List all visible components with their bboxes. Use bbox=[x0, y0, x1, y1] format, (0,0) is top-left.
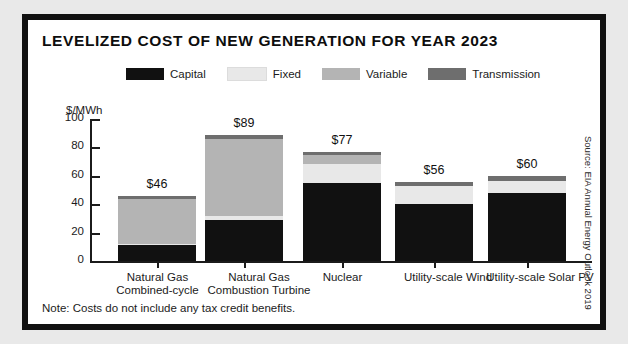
category-label-line: Nuclear bbox=[295, 271, 390, 284]
legend-swatch-icon bbox=[322, 68, 360, 80]
x-axis-tick-mark bbox=[527, 263, 529, 268]
chart-title: LEVELIZED COST OF NEW GENERATION FOR YEA… bbox=[42, 32, 498, 50]
bar-segment-fixed bbox=[395, 186, 473, 204]
bar-segment-capital bbox=[303, 183, 381, 261]
y-axis-tick-label: 20 bbox=[71, 225, 84, 237]
y-axis-line bbox=[90, 119, 92, 261]
bar-segment-fixed bbox=[303, 164, 381, 182]
bar-5[interactable]: $60 bbox=[488, 176, 566, 261]
bar-1[interactable]: $46 bbox=[118, 196, 196, 261]
x-axis-category-label: Nuclear bbox=[295, 271, 390, 284]
bar-value-label: $60 bbox=[517, 157, 538, 171]
x-axis-tick-mark bbox=[342, 263, 344, 268]
chart-page: LEVELIZED COST OF NEW GENERATION FOR YEA… bbox=[0, 0, 628, 344]
bar-segment-capital bbox=[488, 193, 566, 261]
y-axis-tick: 0 bbox=[90, 261, 100, 263]
x-axis-tick-mark bbox=[244, 263, 246, 268]
bar-segment-variable bbox=[205, 139, 283, 216]
y-axis-tick: 60 bbox=[90, 176, 100, 178]
y-axis-tick-label: 40 bbox=[71, 196, 84, 208]
y-axis-tick-mark bbox=[92, 119, 100, 121]
bar-3[interactable]: $77 bbox=[303, 152, 381, 261]
bar-segment-capital bbox=[395, 204, 473, 261]
legend-label: Fixed bbox=[273, 68, 301, 80]
bar-value-label: $56 bbox=[424, 163, 445, 177]
category-label-line: Combustion Turbine bbox=[203, 284, 315, 297]
chart-legend: CapitalFixedVariableTransmission bbox=[126, 67, 552, 81]
legend-item-capital: Capital bbox=[126, 68, 206, 80]
y-axis-tick: 20 bbox=[90, 233, 100, 235]
bar-value-label: $89 bbox=[234, 116, 255, 130]
legend-label: Transmission bbox=[472, 68, 540, 80]
x-axis-tick-mark bbox=[157, 263, 159, 268]
y-axis-tick-mark bbox=[92, 147, 100, 149]
legend-item-variable: Variable bbox=[322, 68, 407, 80]
x-axis-category-label: Utility-scale Solar PV bbox=[480, 271, 600, 284]
x-axis-tick-mark bbox=[434, 263, 436, 268]
legend-item-fixed: Fixed bbox=[227, 67, 301, 81]
bar-segment-fixed bbox=[488, 181, 566, 192]
legend-label: Variable bbox=[366, 68, 407, 80]
y-axis-tick-label: 60 bbox=[71, 168, 84, 180]
y-axis-tick-mark bbox=[92, 176, 100, 178]
chart-note: Note: Costs do not include any tax credi… bbox=[42, 302, 295, 314]
bar-segment-capital bbox=[205, 220, 283, 261]
y-axis-tick-label: 80 bbox=[71, 139, 84, 151]
chart-frame: LEVELIZED COST OF NEW GENERATION FOR YEA… bbox=[22, 14, 606, 330]
x-axis-category-label: Natural GasCombined-cycle bbox=[110, 271, 205, 296]
y-axis-tick: 100 bbox=[90, 119, 100, 121]
bar-2[interactable]: $89 bbox=[205, 135, 283, 261]
bar-4[interactable]: $56 bbox=[395, 182, 473, 262]
category-label-line: Utility-scale Solar PV bbox=[480, 271, 600, 284]
plot-area: 020406080100$46Natural GasCombined-cycle… bbox=[90, 119, 590, 261]
bar-value-label: $77 bbox=[332, 133, 353, 147]
bar-segment-variable bbox=[118, 199, 196, 244]
y-axis-tick-label: 100 bbox=[65, 111, 84, 123]
bar-segment-variable bbox=[303, 155, 381, 165]
y-axis-tick-label: 0 bbox=[78, 253, 84, 265]
legend-label: Capital bbox=[170, 68, 206, 80]
y-axis-tick: 40 bbox=[90, 204, 100, 206]
x-axis-line bbox=[90, 261, 592, 263]
chart-panel: LEVELIZED COST OF NEW GENERATION FOR YEA… bbox=[28, 20, 600, 324]
legend-swatch-icon bbox=[126, 68, 164, 80]
category-label-line: Natural Gas bbox=[110, 271, 205, 284]
legend-item-transmission: Transmission bbox=[428, 68, 540, 80]
y-axis-tick-mark bbox=[92, 204, 100, 206]
category-label-line: Combined-cycle bbox=[110, 284, 205, 297]
legend-swatch-icon bbox=[428, 68, 466, 80]
bar-value-label: $46 bbox=[147, 177, 168, 191]
y-axis-tick-mark bbox=[92, 261, 100, 263]
chart-source: Source: EIA Annual Energy Outlook 2019 bbox=[583, 136, 594, 310]
y-axis-tick: 80 bbox=[90, 147, 100, 149]
legend-swatch-icon bbox=[227, 67, 267, 81]
bar-segment-capital bbox=[118, 245, 196, 261]
y-axis-tick-mark bbox=[92, 233, 100, 235]
